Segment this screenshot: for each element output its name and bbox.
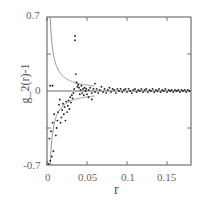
- data-point: [171, 89, 173, 91]
- data-point: [65, 101, 67, 103]
- data-point: [68, 108, 70, 110]
- data-point: [153, 91, 155, 93]
- data-point: [96, 88, 98, 90]
- data-point: [124, 88, 126, 90]
- data-point: [91, 92, 93, 94]
- data-point: [79, 93, 81, 95]
- data-point: [94, 91, 96, 93]
- data-point: [156, 90, 158, 92]
- data-point: [112, 88, 114, 90]
- data-point: [85, 88, 87, 90]
- y-tick-bottom: -0.7: [23, 159, 40, 171]
- data-point: [73, 88, 75, 90]
- data-point: [102, 91, 104, 93]
- data-point: [180, 89, 182, 91]
- data-point: [70, 102, 72, 104]
- data-point: [158, 88, 160, 90]
- data-point: [107, 89, 109, 91]
- data-point: [99, 89, 101, 91]
- data-point: [152, 88, 154, 90]
- data-point: [67, 105, 69, 107]
- data-point: [184, 89, 186, 91]
- data-point: [62, 103, 64, 105]
- data-point: [76, 86, 78, 88]
- data-point: [48, 163, 50, 165]
- data-point: [137, 89, 139, 91]
- x-tick-01: 0.1: [121, 171, 135, 183]
- data-point: [113, 89, 115, 91]
- data-point: [84, 90, 86, 92]
- data-point: [66, 111, 68, 113]
- data-point: [97, 92, 99, 94]
- data-point: [100, 86, 102, 88]
- data-point: [77, 84, 79, 86]
- data-point: [52, 122, 54, 124]
- data-point: [83, 94, 85, 96]
- data-point: [144, 89, 146, 91]
- data-point: [148, 89, 150, 91]
- data-point: [56, 120, 58, 122]
- data-point: [92, 88, 94, 90]
- data-point: [94, 83, 96, 85]
- data-point: [147, 91, 149, 93]
- data-point: [104, 88, 106, 90]
- data-point: [88, 96, 90, 98]
- data-point: [129, 90, 131, 92]
- data-point: [59, 99, 61, 101]
- data-point: [55, 134, 57, 136]
- data-point: [64, 106, 66, 108]
- data-point: [56, 127, 58, 129]
- data-point: [64, 120, 66, 122]
- data-point: [58, 104, 60, 106]
- data-point: [51, 156, 53, 158]
- x-tick-0: 0: [45, 171, 51, 183]
- data-point: [49, 160, 51, 162]
- data-point: [121, 91, 123, 93]
- data-point: [161, 89, 163, 91]
- y-axis-label: g_2(r)-1: [18, 64, 33, 104]
- data-point: [123, 89, 125, 91]
- x-tick-005: 0.05: [78, 171, 97, 183]
- data-point: [50, 130, 52, 132]
- lower-envelope-curve: [50, 96, 94, 165]
- data-point: [169, 90, 171, 92]
- data-point: [89, 87, 91, 89]
- data-point: [105, 92, 107, 94]
- data-point: [60, 122, 62, 124]
- data-point: [110, 91, 112, 93]
- data-point: [82, 88, 84, 90]
- data-point: [71, 94, 73, 96]
- data-point: [163, 90, 165, 92]
- data-point: [88, 89, 90, 91]
- data-point: [166, 91, 168, 93]
- data-point: [74, 39, 76, 41]
- data-point: [80, 85, 82, 87]
- data-point: [168, 89, 170, 91]
- data-point: [57, 111, 59, 113]
- data-point: [118, 90, 120, 92]
- data-point: [132, 89, 134, 91]
- data-point: [177, 89, 179, 91]
- data-point: [108, 87, 110, 89]
- data-point: [72, 97, 74, 99]
- data-point: [172, 91, 174, 93]
- data-point: [80, 89, 82, 91]
- data-point: [81, 92, 83, 94]
- data-point: [76, 82, 78, 84]
- data-point: [126, 91, 128, 93]
- data-point: [63, 113, 65, 115]
- data-point: [179, 91, 181, 93]
- data-point: [68, 100, 70, 102]
- data-point: [61, 109, 63, 111]
- data-point: [116, 88, 118, 90]
- data-point: [49, 85, 51, 87]
- data-point: [131, 92, 133, 94]
- data-point: [53, 113, 55, 115]
- data-point: [150, 90, 152, 92]
- data-point: [74, 35, 76, 37]
- data-point: [134, 88, 136, 90]
- data-point: [72, 92, 74, 94]
- data-point: [69, 96, 71, 98]
- x-tick-015: 0.15: [157, 171, 176, 183]
- data-point: [115, 92, 117, 94]
